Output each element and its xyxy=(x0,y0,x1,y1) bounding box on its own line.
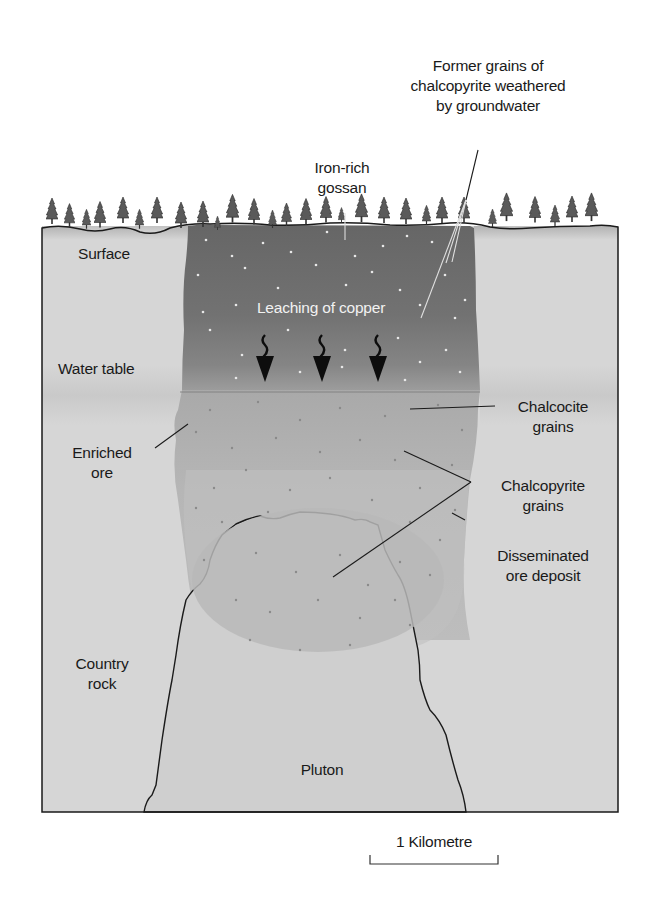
tree-icon xyxy=(566,196,578,222)
tree-icon xyxy=(436,197,448,223)
tree-icon xyxy=(400,198,412,224)
tree-icon xyxy=(226,194,239,222)
tree-icon xyxy=(338,207,345,222)
tree-icon xyxy=(46,198,58,224)
tree-icon xyxy=(422,205,431,225)
tree-icon xyxy=(117,197,129,223)
label-country-rock: Country rock xyxy=(58,654,146,694)
tree-icon xyxy=(585,193,598,221)
tree-icon xyxy=(94,202,106,228)
scale-bar-label: 1 Kilometre xyxy=(370,832,498,852)
label-enriched-ore: Enriched ore xyxy=(58,443,146,483)
tree-icon xyxy=(151,197,163,223)
label-gossan: Iron-rich gossan xyxy=(297,158,387,198)
tree-icon xyxy=(529,197,541,223)
label-disseminated: Disseminated ore deposit xyxy=(478,546,608,586)
tree-icon xyxy=(500,193,513,221)
tree-icon xyxy=(175,202,187,228)
scale-bar xyxy=(370,855,498,864)
tree-icon xyxy=(320,197,332,223)
tree-icon xyxy=(488,209,496,227)
label-leaching: Leaching of copper xyxy=(226,298,416,318)
tree-icon xyxy=(82,209,91,229)
label-pluton: Pluton xyxy=(282,760,362,780)
tree-icon xyxy=(64,204,75,228)
tree-icon xyxy=(197,201,209,227)
label-chalcopyrite: Chalcopyrite grains xyxy=(478,476,608,516)
label-chalcocite: Chalcocite grains xyxy=(498,397,608,437)
enriched-pluton-top xyxy=(192,508,444,652)
tree-icon xyxy=(135,209,144,229)
tree-icon xyxy=(355,194,368,222)
label-surface: Surface xyxy=(78,244,130,264)
label-water-table: Water table xyxy=(58,359,134,379)
former-grains-leader xyxy=(466,150,478,200)
tree-icon xyxy=(248,199,260,225)
tree-icon xyxy=(300,199,312,225)
tree-icon xyxy=(378,197,390,223)
tree-icon xyxy=(550,205,560,226)
label-former-grains: Former grains of chalcopyrite weathered … xyxy=(398,56,578,116)
tree-icon xyxy=(281,203,292,226)
